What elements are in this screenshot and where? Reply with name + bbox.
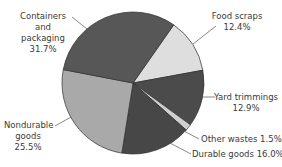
pie-slice-nondurable-goods bbox=[62, 70, 133, 154]
label-nondurable-goods: Nondurable goods 25.5% bbox=[4, 120, 52, 153]
leader-durable bbox=[170, 143, 191, 154]
leader-other bbox=[184, 131, 199, 139]
label-containers-line2: packaging bbox=[12, 33, 74, 44]
pie-slices bbox=[62, 12, 204, 154]
label-food-value: 12.4% bbox=[207, 22, 267, 33]
label-durable-goods: Durable goods 16.0% bbox=[192, 149, 282, 160]
label-nondurable-line1: Nondurable bbox=[4, 120, 52, 131]
label-containers-line1: Containers and bbox=[12, 11, 74, 33]
label-food-scraps: Food scraps 12.4% bbox=[207, 11, 267, 33]
label-yard-line1: Yard trimmings bbox=[212, 92, 280, 103]
label-other-wastes: Other wastes 1.5% bbox=[201, 134, 282, 145]
label-nondurable-line2: goods bbox=[4, 131, 52, 142]
label-food-line1: Food scraps bbox=[207, 11, 267, 22]
label-yard-trimmings: Yard trimmings 12.9% bbox=[212, 92, 280, 114]
label-yard-value: 12.9% bbox=[212, 103, 280, 114]
leader-containers bbox=[72, 17, 87, 29]
label-nondurable-value: 25.5% bbox=[4, 142, 52, 153]
label-containers: Containers and packaging 31.7% bbox=[12, 11, 74, 55]
leader-nondurable bbox=[55, 117, 71, 126]
label-containers-value: 31.7% bbox=[12, 44, 74, 55]
